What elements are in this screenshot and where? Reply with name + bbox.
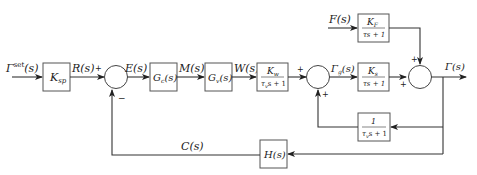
error-label: E(s) (124, 62, 147, 75)
svg-text:τvs + 1: τvs + 1 (362, 130, 387, 139)
gv-block: Gv(s) (205, 63, 232, 91)
setpoint-sup: set (14, 61, 25, 69)
lag-block: 1 τvs + 1 (358, 113, 390, 141)
disturbance-label: F(s) (328, 13, 351, 26)
controller-output-label: M(s) (178, 62, 205, 75)
gv-base: G (208, 72, 216, 83)
measurement-label: C(s) (181, 140, 204, 153)
svg-text:Γset(s): Γset(s) (5, 61, 38, 75)
setpoint-base: Γ (5, 62, 14, 75)
ks-den: τs + 1 (363, 80, 385, 88)
gc-arg: (s) (164, 72, 177, 83)
svg-text:Γg(s): Γg(s) (330, 63, 355, 76)
kw-block: Kw τvs + 1 (257, 63, 288, 91)
block-diagram: Γset(s) Ksp R(s) + − E(s) Gc(s) M(s) Gv(… (0, 0, 477, 175)
svg-text:Gc(s): Gc(s) (153, 72, 177, 84)
gamma-g-arg: (s) (342, 63, 355, 74)
ksp-block: Ksp (43, 63, 70, 91)
output-label: Γ(s) (444, 61, 465, 72)
ks-block: Ks τs + 1 (358, 63, 389, 91)
sum2-plus-bottom: + (322, 90, 329, 99)
svg-text:H(s): H(s) (263, 149, 286, 160)
svg-text:Gv(s): Gv(s) (208, 72, 232, 84)
reference-label: R(s) (71, 62, 95, 75)
gc-base: G (153, 72, 161, 83)
setpoint-signal: Γset(s) (5, 61, 42, 77)
sum3-plus-top: + (411, 55, 418, 64)
sum1-plus-sign: + (95, 64, 102, 73)
sum2-plus-left: + (297, 65, 304, 74)
kf-block: KF τs + 1 (358, 14, 389, 42)
ks-num-sub: s (375, 70, 378, 77)
summing-junction-2 (307, 66, 330, 89)
sum3-plus-left: + (400, 80, 407, 89)
setpoint-arg: (s) (24, 62, 38, 75)
svg-text:τvs + 1: τvs + 1 (261, 80, 286, 89)
kf-num-sub: F (373, 21, 379, 28)
gc-block: Gc(s) (150, 63, 177, 91)
h-arg: (s) (273, 149, 286, 160)
gv-arg: (s) (219, 72, 232, 83)
kw-num-sub: w (274, 70, 280, 77)
lag-den-post: s + 1 (369, 130, 387, 138)
lag-num: 1 (371, 117, 376, 126)
kf-den: τs + 1 (363, 31, 385, 39)
kw-den-post: s + 1 (268, 80, 286, 88)
summing-junction-3 (409, 66, 432, 89)
ksp-sub: sp (58, 77, 67, 85)
sum1-minus-sign: − (118, 93, 126, 103)
h-block: H(s) (260, 140, 287, 168)
valve-output-label: W(s) (234, 62, 260, 75)
h-base: H (263, 149, 273, 160)
